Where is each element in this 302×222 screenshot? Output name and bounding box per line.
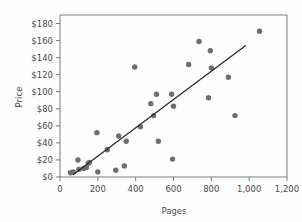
x-tick-label: 0 [57,184,62,194]
scatter-point [232,113,237,118]
scatter-point [257,29,262,34]
scatter-point [148,101,153,106]
scatter-point [94,130,99,135]
y-axis-tick-labels: $0$20$40$60$80$100$120$140$160$180 [31,19,53,182]
x-tick-label: 800 [203,184,219,194]
y-tick-label: $160 [31,36,53,46]
y-axis-title: Price [14,87,24,108]
y-tick-label: $180 [31,19,53,29]
scatter-point [132,64,137,69]
y-tick-label: $20 [37,155,53,165]
scatter-point [75,157,80,162]
y-tick-label: $0 [42,172,53,182]
y-tick-label: $80 [37,104,53,114]
x-tick-label: 200 [90,184,106,194]
y-tick-label: $120 [31,70,53,80]
scatter-point [171,104,176,109]
scatter-point [206,95,211,100]
y-tick-label: $140 [31,53,53,63]
chart-canvas: $0$20$40$60$80$100$120$140$160$180 02004… [0,0,302,222]
scatter-point [113,167,118,172]
scatter-point [124,138,129,143]
scatter-point [186,62,191,67]
scatter-point [169,92,174,97]
x-tick-label: 1,000 [237,184,261,194]
scatter-point [170,156,175,161]
x-axis-tick-labels: 02004006008001,0001,200 [57,184,299,194]
scatter-point [116,133,121,138]
y-tick-label: $40 [37,138,53,148]
x-axis-ticks [60,177,287,181]
scatter-plot-figure: $0$20$40$60$80$100$120$140$160$180 02004… [0,0,302,222]
scatter-point [122,163,127,168]
y-tick-label: $100 [31,87,53,97]
trend-line-group [73,46,245,175]
scatter-point [208,48,213,53]
y-axis-ticks [56,24,60,177]
scatter-point [156,138,161,143]
scatter-points-group [68,29,263,176]
x-tick-label: 1,200 [275,184,299,194]
scatter-point [154,92,159,97]
x-axis-title: Pages [161,206,187,216]
scatter-point [196,39,201,44]
scatter-point [226,75,231,80]
x-tick-label: 400 [128,184,144,194]
x-tick-label: 600 [165,184,181,194]
scatter-point [95,169,100,174]
y-tick-label: $60 [37,121,53,131]
trend-line [73,46,245,175]
